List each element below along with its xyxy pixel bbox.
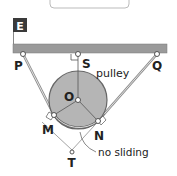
label-no-sliding: no sliding	[98, 146, 149, 158]
point-s	[76, 52, 81, 57]
tag-box-label: E	[16, 20, 24, 33]
top-frame-box	[50, 0, 129, 8]
label-q: Q	[152, 59, 162, 73]
tag-box-e: E	[13, 18, 27, 33]
label-p: P	[14, 59, 23, 73]
rope-q-n-inner	[98, 54, 157, 121]
label-s: S	[82, 57, 91, 71]
point-p	[21, 52, 26, 57]
ceiling-bar	[13, 44, 167, 53]
pulley-diagram: E P S Q O M N T pulley no sliding	[0, 0, 177, 176]
point-q	[155, 52, 160, 57]
point-o	[76, 98, 81, 103]
label-o: O	[64, 90, 74, 104]
point-n	[96, 119, 101, 124]
label-pulley: pulley	[96, 67, 130, 80]
label-n: N	[94, 129, 104, 143]
label-t: T	[68, 156, 77, 170]
point-t	[70, 150, 74, 154]
point-m	[52, 113, 57, 118]
label-m: M	[42, 123, 54, 137]
